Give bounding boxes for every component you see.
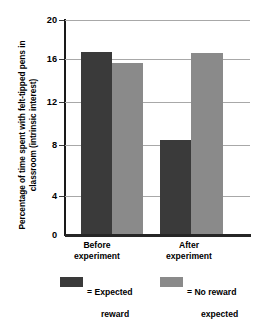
legend-label-expected-reward-line1: = Expected: [87, 287, 133, 297]
category-label-before-line1: Before: [63, 240, 131, 251]
category-label-before-line2: experiment: [63, 251, 131, 262]
bar-before-no-reward: [112, 63, 143, 236]
chart-legend: = Expected reward = No reward expected: [0, 276, 258, 309]
y-tick-label-16: 16: [17, 54, 57, 64]
legend-swatch-expected-reward: [60, 277, 83, 287]
legend-entry-no-reward: = No reward expected: [160, 276, 238, 320]
x-axis-baseline: [65, 234, 251, 237]
bar-before-expected-reward: [81, 52, 112, 236]
bar-after-expected-reward: [160, 140, 191, 236]
legend-entry-expected-reward: = Expected reward: [60, 276, 133, 320]
legend-label-no-reward: = No reward expected: [187, 276, 238, 320]
category-label-after-line1: After: [155, 240, 223, 251]
gridline-20: [65, 20, 250, 21]
y-tick-label-12: 12: [17, 97, 57, 107]
category-label-after: After experiment: [155, 240, 223, 262]
y-tick-label-8: 8: [17, 140, 57, 150]
y-tick-label-4: 4: [17, 191, 57, 201]
category-label-before: Before experiment: [63, 240, 131, 262]
y-tick-label-group: 20 16 12 8 4 0: [0, 0, 57, 309]
bar-after-no-reward: [191, 53, 223, 236]
category-label-after-line2: experiment: [155, 251, 223, 262]
y-tick-label-0: 0: [17, 230, 57, 240]
legend-label-expected-reward-line2: reward: [87, 309, 129, 320]
legend-label-no-reward-line1: = No reward: [187, 287, 236, 297]
legend-label-expected-reward: = Expected reward: [87, 276, 133, 320]
plot-area: [65, 20, 250, 236]
y-tick-label-20: 20: [17, 15, 57, 25]
legend-swatch-no-reward: [160, 277, 183, 287]
legend-label-no-reward-line2: expected: [187, 309, 238, 320]
